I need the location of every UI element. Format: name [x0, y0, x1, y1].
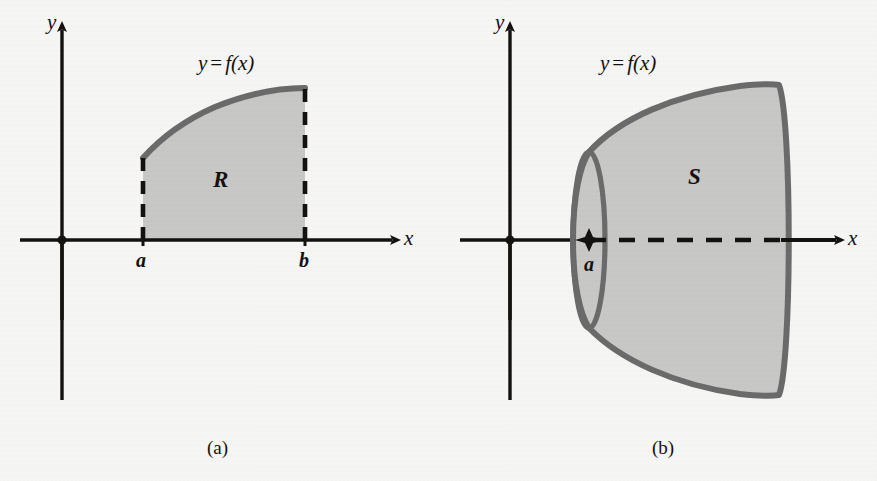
textbook-figure: y x y=f(x) a b R (a): [0, 0, 877, 481]
curve-label-b: y=f(x): [600, 53, 656, 74]
curve-label-b-y: y: [600, 51, 609, 75]
panel-b-graphic: [440, 0, 877, 481]
x-axis-label-b: x: [848, 228, 857, 249]
curve-label-b-eq: =: [609, 51, 627, 75]
caption-a: (a): [207, 438, 228, 457]
x-axis-label-a: x: [404, 228, 413, 249]
curve-label-a-y: y: [198, 51, 207, 75]
curve-label-b-fx: f(x): [627, 51, 656, 75]
solid-label-s: S: [688, 165, 701, 188]
region-r-fill: [143, 88, 305, 240]
limit-label-b: b: [299, 250, 309, 270]
panel-b: y x y=f(x) a S (b): [440, 0, 877, 481]
y-axis-label-b: y: [495, 12, 504, 33]
curve-label-a: y=f(x): [198, 53, 254, 74]
region-label-r: R: [213, 168, 228, 191]
caption-b: (b): [652, 438, 674, 457]
limit-label-a-b: a: [584, 254, 594, 274]
y-axis-label-a: y: [47, 12, 56, 33]
limit-label-a: a: [136, 250, 146, 270]
curve-label-a-fx: f(x): [225, 51, 254, 75]
curve-label-a-eq: =: [207, 51, 225, 75]
panel-a: y x y=f(x) a b R (a): [0, 0, 440, 481]
